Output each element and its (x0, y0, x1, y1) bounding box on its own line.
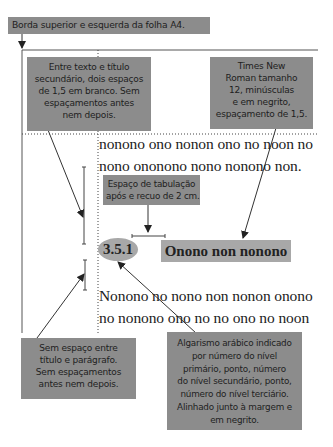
section-title: Onono non nonono (161, 240, 291, 262)
paragraph1-line2: nono onononо nono nonono non. (99, 157, 301, 175)
paragraph1-line1: nonono ono nonon ono no noon no (99, 135, 313, 153)
note-spacing-before: Entre texto e título secundário, dois es… (27, 57, 151, 131)
note-tab: Espaço de tabulação após e recuo de 2 cm… (103, 175, 200, 205)
note-no-space: Sem espaço entre título e parágrafo. Sem… (21, 338, 136, 399)
note-font: Times New Roman tamanho 12, minúsculas e… (210, 57, 313, 129)
note-numbering: Algarismo arábico indicado por número do… (167, 332, 302, 430)
top-label: Borda superior e esquerda da folha A4. (8, 17, 210, 34)
paragraph2-line2: no nonono ono no no ono no noon (99, 309, 309, 327)
section-number: 3.5.1 (98, 238, 138, 261)
paragraph2-line1: Nonono no nono non nonon onono (99, 287, 313, 305)
